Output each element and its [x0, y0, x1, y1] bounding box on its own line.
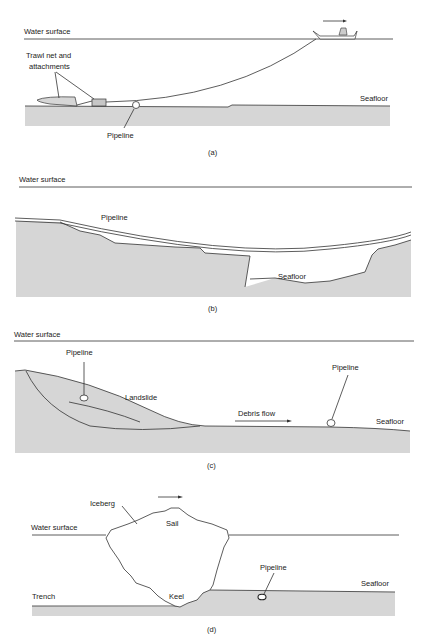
pipeline-icon-d — [258, 594, 266, 600]
seafloor-ground-d — [32, 590, 395, 616]
seafloor-label-c: Seafloor — [376, 417, 404, 426]
panel-c-landslide: Water surface Pipeline Landslide Debris … — [14, 330, 414, 470]
pipeline-icon-a — [133, 102, 140, 109]
landslide-label: Landslide — [125, 393, 157, 402]
keel-label: Keel — [169, 592, 184, 601]
sail-label: Sail — [166, 519, 179, 528]
fishing-boat-icon — [313, 28, 357, 39]
pipeline-label-d: Pipeline — [260, 563, 287, 572]
panel-d-iceberg: Water surface Sail Keel Iceberg Pipeline… — [31, 496, 399, 635]
seafloor-ground-c — [15, 370, 410, 453]
arrowhead-icon — [178, 496, 183, 499]
seafloor-ground-a — [25, 105, 390, 126]
trawl-leader-2 — [56, 72, 94, 99]
seafloor-label-d: Seafloor — [361, 579, 389, 588]
arrowhead-icon — [343, 20, 347, 23]
caption-b: (b) — [208, 304, 218, 313]
pipeline-icon-c-right — [327, 420, 335, 427]
water-surface-label-d: Water surface — [31, 523, 77, 532]
pipeline-icon-c-left — [80, 395, 88, 401]
debris-flow-label: Debris flow — [238, 409, 276, 418]
caption-a: (a) — [208, 148, 218, 157]
tow-cable — [106, 39, 316, 102]
panel-b-spanning: Water surface Pipeline Seafloor (b) — [15, 175, 412, 313]
trawl-net-shape — [37, 97, 77, 106]
pipeline-label-a: Pipeline — [107, 131, 134, 140]
trawl-bridle — [77, 101, 92, 105]
trawl-label-line2: attachments — [29, 62, 70, 71]
iceberg-label: Iceberg — [90, 499, 115, 508]
seafloor-label-a: Seafloor — [360, 94, 388, 103]
caption-c: (c) — [207, 461, 216, 470]
water-surface-label-b: Water surface — [19, 175, 65, 184]
pipeline-leader-c-right — [332, 375, 348, 419]
iceberg-leader — [122, 506, 137, 524]
caption-d: (d) — [207, 625, 217, 634]
seafloor-label-b: Seafloor — [278, 272, 306, 281]
arrowhead-icon — [287, 420, 292, 423]
trench-label: Trench — [32, 592, 55, 601]
pipeline-label-c-left: Pipeline — [66, 348, 93, 357]
seafloor-ground-b — [16, 221, 411, 297]
pipeline-label-c-right: Pipeline — [332, 363, 359, 372]
water-surface-label-c: Water surface — [14, 330, 60, 339]
panel-a-trawling: Water surface Seafloor Trawl net and att… — [24, 20, 393, 158]
trawl-label-line1: Trawl net and — [26, 51, 71, 60]
figure: Water surface Seafloor Trawl net and att… — [0, 0, 427, 642]
trawl-door-shape — [92, 99, 106, 106]
water-surface-label-a: Water surface — [24, 27, 70, 36]
trawl-leader-1 — [55, 72, 59, 98]
pipeline-label-b: Pipeline — [101, 213, 128, 222]
